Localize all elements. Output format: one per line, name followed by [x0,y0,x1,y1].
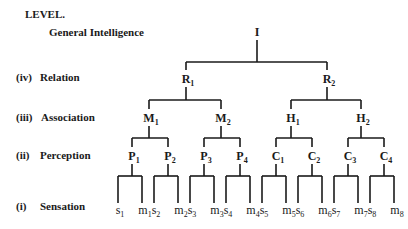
perception-node: P4 [236,149,247,165]
perception-node: C2 [308,149,321,165]
sensation-node: s4 [224,203,233,219]
root-node: I [255,25,260,39]
sensation-node: s8 [368,203,377,219]
sensation-node: m7 [354,203,367,219]
sensation-node: s7 [332,203,341,219]
perception-node: P2 [164,149,175,165]
sensation-node: m2 [174,203,187,219]
sensation-node: s1 [116,203,125,219]
sensation-node: m3 [210,203,223,219]
hierarchy-tree: IR1R2M1M2H1H2P1P2P3P4C1C2C3C4s1m1s2m2s3m… [0,0,408,229]
sensation-node: m1 [138,203,151,219]
association-node: M2 [215,111,230,127]
association-node: M1 [143,111,158,127]
perception-node: C3 [344,149,357,165]
relation-node: R1 [182,72,195,88]
sensation-node: m4 [246,203,259,219]
perception-node: P3 [200,149,211,165]
sensation-node: s2 [152,203,161,219]
sensation-node: m8 [390,203,403,219]
relation-node: R2 [323,72,336,88]
sensation-node: s5 [260,203,269,219]
association-node: H1 [286,111,299,127]
sensation-node: s6 [296,203,305,219]
association-node: H2 [356,111,369,127]
sensation-node: s3 [188,203,197,219]
perception-node: C1 [272,149,285,165]
perception-node: C4 [380,149,393,165]
perception-node: P1 [128,149,139,165]
sensation-node: m6 [318,203,331,219]
sensation-node: m5 [282,203,295,219]
